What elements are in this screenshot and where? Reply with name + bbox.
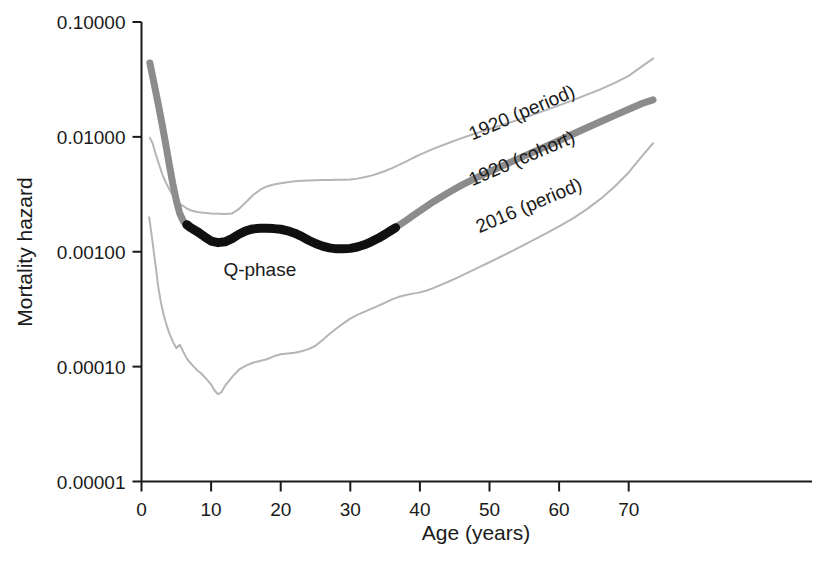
y-tick-label: 0.10000 xyxy=(57,12,126,33)
curve-labels: 1920 (period)1920 (cohort)2016 (period) xyxy=(466,81,585,237)
x-tick-label: 20 xyxy=(270,499,291,520)
chart-annotations: Q-phase xyxy=(223,259,296,280)
x-axis-tick-labels: 010203040506070 xyxy=(136,499,639,520)
series-line xyxy=(187,225,396,249)
x-axis-title: Age (years) xyxy=(422,521,531,544)
y-tick-label: 0.00010 xyxy=(57,357,126,378)
y-tick-label: 0.00100 xyxy=(57,242,126,263)
y-tick-label: 0.00001 xyxy=(57,472,126,493)
x-tick-label: 0 xyxy=(136,499,147,520)
mortality-hazard-chart: 0.100000.010000.001000.000100.00001 0102… xyxy=(0,0,818,568)
y-axis-title: Mortality hazard xyxy=(13,177,36,326)
x-tick-label: 50 xyxy=(479,499,500,520)
y-axis-tick-labels: 0.100000.010000.001000.000100.00001 xyxy=(57,12,126,493)
x-axis-ticks xyxy=(142,482,629,492)
y-tick-label: 0.01000 xyxy=(57,127,126,148)
x-tick-label: 40 xyxy=(409,499,430,520)
x-tick-label: 30 xyxy=(340,499,361,520)
x-tick-label: 60 xyxy=(549,499,570,520)
x-tick-label: 10 xyxy=(201,499,222,520)
chart-svg: 0.100000.010000.001000.000100.00001 0102… xyxy=(0,0,818,568)
y-axis-ticks xyxy=(133,22,142,482)
series-line xyxy=(150,63,653,249)
annotation-label: Q-phase xyxy=(223,259,296,280)
chart-curves xyxy=(149,59,653,395)
x-tick-label: 70 xyxy=(618,499,639,520)
